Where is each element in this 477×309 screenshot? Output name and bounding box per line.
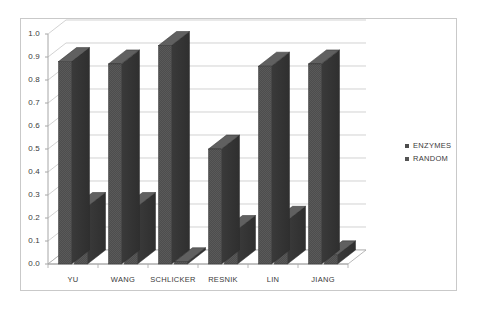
legend-swatch-random: [405, 157, 409, 161]
y-tick-label: 0.1: [18, 236, 40, 245]
y-tick-label: 0.2: [18, 213, 40, 222]
x-tick-label: RESNIK: [198, 275, 248, 284]
x-tick-label: SCHLICKER: [148, 275, 198, 284]
bar-wang-enzymes: [109, 50, 140, 264]
x-tick-label: YU: [48, 275, 98, 284]
y-tick-label: 0.8: [18, 75, 40, 84]
legend-item-random[interactable]: RANDOM: [405, 152, 451, 165]
bar-yu-enzymes: [59, 48, 90, 264]
bar-resnik-enzymes: [209, 135, 240, 264]
x-tick-label: WANG: [98, 275, 148, 284]
legend-label-random: RANDOM: [413, 154, 448, 163]
legend-swatch-enzymes: [405, 144, 409, 148]
y-tick-label: 0.7: [18, 98, 40, 107]
y-tick-label: 0.5: [18, 144, 40, 153]
bar-jiang-enzymes: [309, 50, 340, 264]
bar-lin-enzymes: [259, 52, 290, 264]
y-tick-label: 0.4: [18, 167, 40, 176]
x-tick-label: JIANG: [298, 275, 348, 284]
legend-label-enzymes: ENZYMES: [413, 141, 451, 150]
y-tick-label: 1.0: [18, 29, 40, 38]
legend-item-enzymes[interactable]: ENZYMES: [405, 139, 451, 152]
bar-chart-figure: 1.00.90.80.70.60.50.40.30.20.10.0 YUWANG…: [0, 0, 477, 309]
x-tick-label: LIN: [248, 275, 298, 284]
y-tick-label: 0.0: [18, 259, 40, 268]
y-tick-label: 0.6: [18, 121, 40, 130]
y-tick-label: 0.9: [18, 52, 40, 61]
bar-schlicker-enzymes: [159, 32, 190, 265]
bars-group: [59, 32, 356, 265]
y-tick-label: 0.3: [18, 190, 40, 199]
chart-legend: ENZYMES RANDOM: [405, 139, 451, 165]
